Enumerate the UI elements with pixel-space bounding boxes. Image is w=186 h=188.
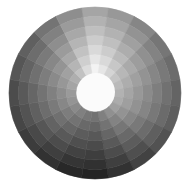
wheel-cell: [133, 86, 143, 101]
wheel-cell: [9, 80, 20, 107]
wheel-cell: [142, 84, 152, 102]
wheel-cell: [86, 140, 104, 150]
gray-value-wheel: Grayscale value wheel: [0, 0, 186, 188]
wheel-cell: [83, 159, 107, 169]
wheel-cell: [38, 84, 48, 102]
wheel-cell: [85, 150, 106, 160]
wheel-cell: [89, 55, 101, 65]
wheel-cell: [85, 26, 106, 36]
wheel-cell: [82, 168, 109, 179]
wheel-cell: [83, 17, 107, 27]
wheel-cell: [28, 83, 38, 104]
wheel-cell: [86, 36, 104, 46]
wheel-cell: [88, 45, 103, 55]
wheel-graphic: [0, 0, 186, 188]
wheel-cell: [19, 81, 29, 105]
wheel-cell: [152, 83, 162, 104]
wheel-cell: [170, 80, 181, 107]
wheel-cell: [47, 86, 57, 101]
wheel-cell: [57, 87, 67, 99]
wheel-cell: [89, 121, 101, 131]
wheel-cell: [88, 131, 103, 141]
wheel-cell: [82, 7, 109, 18]
center-hole: [77, 73, 115, 111]
wheel-cell: [123, 87, 133, 99]
wheel-cell: [161, 81, 171, 105]
